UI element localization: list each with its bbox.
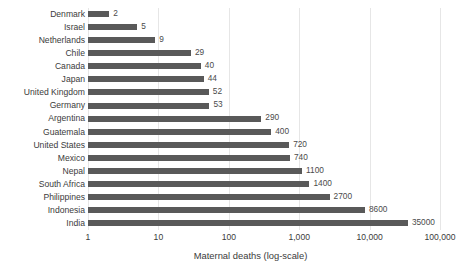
- maternal-deaths-bar-chart: DenmarkIsraelNetherlandsChileCanadaJapan…: [0, 0, 471, 277]
- x-tick-label: 10: [154, 232, 164, 242]
- bar-row: 29: [88, 47, 440, 59]
- bar: [88, 168, 302, 174]
- plot-area: 2592940445253290400720740110014002700860…: [88, 8, 440, 230]
- category-label: Nepal: [0, 165, 85, 177]
- bar-value-label: 740: [294, 151, 308, 163]
- bar-row: 740: [88, 152, 440, 164]
- bar-value-label: 400: [275, 125, 289, 137]
- bar: [88, 116, 261, 122]
- bar-value-label: 2700: [334, 190, 352, 202]
- bar-row: 9: [88, 34, 440, 46]
- bar: [88, 142, 289, 148]
- category-label: United Kingdom: [0, 86, 85, 98]
- bar: [88, 155, 290, 161]
- bar: [88, 50, 191, 56]
- bar-row: 40: [88, 60, 440, 72]
- bar: [88, 220, 408, 226]
- bar-row: 1100: [88, 165, 440, 177]
- bar: [88, 181, 309, 187]
- x-tick-label: 100: [222, 232, 236, 242]
- bar: [88, 207, 365, 213]
- bar-value-label: 44: [208, 72, 217, 84]
- category-label: Canada: [0, 60, 85, 72]
- x-axis-title-text: Maternal deaths (log-scale): [194, 250, 308, 261]
- bar-row: 720: [88, 139, 440, 151]
- category-label: United States: [0, 139, 85, 151]
- bar-value-label: 290: [265, 111, 279, 123]
- category-label: South Africa: [0, 178, 85, 190]
- category-label: Denmark: [0, 8, 85, 20]
- category-label: Indonesia: [0, 204, 85, 216]
- bar-value-label: 1400: [313, 177, 331, 189]
- category-label: Germany: [0, 99, 85, 111]
- bar: [88, 63, 201, 69]
- bar-row: 2: [88, 8, 440, 20]
- bar-row: 35000: [88, 217, 440, 229]
- bar-value-label: 5: [141, 20, 146, 32]
- bar: [88, 89, 209, 95]
- bar-row: 53: [88, 99, 440, 111]
- bar-row: 290: [88, 112, 440, 124]
- bar-value-label: 2: [113, 7, 118, 19]
- bar-value-label: 29: [195, 46, 204, 58]
- bar-value-label: 8600: [369, 203, 387, 215]
- x-tick-label: 1,000: [288, 232, 310, 242]
- bar: [88, 129, 271, 135]
- category-axis-labels: DenmarkIsraelNetherlandsChileCanadaJapan…: [0, 8, 85, 230]
- category-label: Philippines: [0, 191, 85, 203]
- bar-value-label: 35000: [412, 216, 435, 228]
- bar-row: 1400: [88, 178, 440, 190]
- x-axis-ticks: 1101001,00010,000100,000: [88, 232, 440, 248]
- x-axis-title: Maternal deaths (log-scale): [0, 250, 471, 261]
- x-tick-label: 1: [86, 232, 91, 242]
- bar-value-label: 1100: [306, 164, 324, 176]
- category-label: Netherlands: [0, 34, 85, 46]
- bar-row: 52: [88, 86, 440, 98]
- category-label: Argentina: [0, 112, 85, 124]
- x-tick-label: 10,000: [356, 232, 382, 242]
- bar-row: 8600: [88, 204, 440, 216]
- category-label: Chile: [0, 47, 85, 59]
- bar: [88, 194, 330, 200]
- category-label: Israel: [0, 21, 85, 33]
- category-label: Japan: [0, 73, 85, 85]
- bar-value-label: 53: [213, 98, 222, 110]
- bar-row: 5: [88, 21, 440, 33]
- x-tick-label: 100,000: [424, 232, 455, 242]
- bar-row: 2700: [88, 191, 440, 203]
- bar: [88, 76, 204, 82]
- bar: [88, 103, 209, 109]
- bar-value-label: 52: [213, 85, 222, 97]
- category-label: Guatemala: [0, 126, 85, 138]
- bar-value-label: 9: [159, 33, 164, 45]
- bar-row: 44: [88, 73, 440, 85]
- bar-value-label: 40: [205, 59, 214, 71]
- bar: [88, 24, 137, 30]
- category-label: India: [0, 217, 85, 229]
- bar: [88, 37, 155, 43]
- bar-value-label: 720: [293, 138, 307, 150]
- bar: [88, 11, 109, 17]
- gridline-100000: [440, 8, 441, 230]
- bar-row: 400: [88, 126, 440, 138]
- category-label: Mexico: [0, 152, 85, 164]
